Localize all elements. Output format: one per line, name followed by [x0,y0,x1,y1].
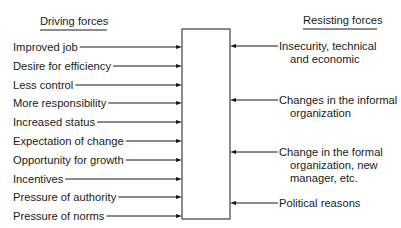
resisting-force-item: Political reasons [230,197,361,209]
driving-forces-group: Improved jobDesire for efficiencyLess co… [13,41,182,222]
driving-force-label: Increased status [13,116,95,128]
resisting-force-item: Insecurity, technicaland economic [230,40,376,65]
driving-force-label: Pressure of norms [13,210,105,222]
resisting-force-item: Changes in the informalorganization [230,94,397,119]
driving-force-item: Improved job [13,41,182,53]
force-field-diagram: Driving forces Resisting forces Improved… [0,0,401,228]
driving-force-label: Opportunity for growth [13,154,124,166]
arrow-right-icon [176,45,182,49]
arrow-right-icon [176,139,182,143]
resisting-force-label: organization [290,107,351,119]
arrow-right-icon [176,158,182,162]
arrow-right-icon [176,101,182,105]
driving-force-item: Increased status [13,116,182,128]
driving-force-label: More responsibility [13,97,107,109]
resisting-force-item: Change in the formalorganization, newman… [230,146,383,184]
driving-force-item: Pressure of norms [13,210,182,222]
resisting-forces-header: Resisting forces [303,14,383,26]
driving-force-item: Desire for efficiency [13,60,182,72]
arrow-right-icon [176,177,182,181]
driving-force-item: More responsibility [13,97,182,109]
resisting-force-label: Insecurity, technical [279,40,376,52]
resisting-force-label: manager, etc. [290,172,358,184]
resisting-forces-group: Insecurity, technicaland economicChanges… [230,40,397,209]
arrow-left-icon [230,98,236,102]
driving-force-label: Pressure of authority [13,191,117,203]
driving-forces-header: Driving forces [40,15,109,27]
driving-force-item: Less control [13,79,182,91]
driving-force-label: Incentives [13,173,64,185]
arrow-right-icon [176,64,182,68]
resisting-force-label: Changes in the informal [279,94,397,106]
arrow-left-icon [230,201,236,205]
arrow-right-icon [176,195,182,199]
resisting-force-label: Change in the formal [279,146,383,158]
arrow-right-icon [176,120,182,124]
driving-force-item: Expectation of change [13,135,182,147]
equilibrium-box [182,29,230,219]
driving-force-item: Incentives [13,173,182,185]
driving-force-label: Improved job [13,41,78,53]
resisting-force-label: Political reasons [279,197,361,209]
resisting-force-label: and economic [290,53,360,65]
arrow-left-icon [230,44,236,48]
driving-force-label: Desire for efficiency [13,60,111,72]
arrow-left-icon [230,150,236,154]
driving-force-label: Less control [13,79,73,91]
arrow-right-icon [176,214,182,218]
driving-force-item: Opportunity for growth [13,154,182,166]
resisting-force-label: organization, new [290,159,379,171]
arrow-right-icon [176,83,182,87]
driving-force-label: Expectation of change [13,135,124,147]
driving-force-item: Pressure of authority [13,191,182,203]
